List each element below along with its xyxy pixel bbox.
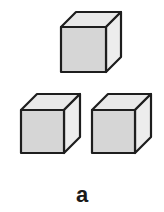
bottom-right-cube [92,94,151,153]
front-face [92,110,135,153]
cube-diagram [0,0,164,212]
figure-label: a [0,183,164,207]
front-face [61,27,106,72]
top-cube [61,12,121,72]
front-face [21,110,64,153]
bottom-left-cube [21,94,80,153]
